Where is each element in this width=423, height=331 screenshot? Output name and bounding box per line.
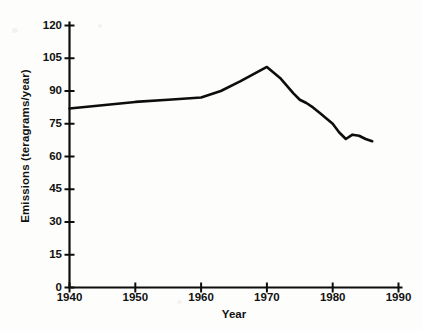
plot-area — [0, 0, 423, 331]
chart-figure: Emissions (teragrams/year) Year 01530456… — [0, 0, 423, 331]
data-series — [70, 67, 373, 141]
axes — [65, 22, 403, 293]
series-line-emissions — [70, 67, 373, 141]
